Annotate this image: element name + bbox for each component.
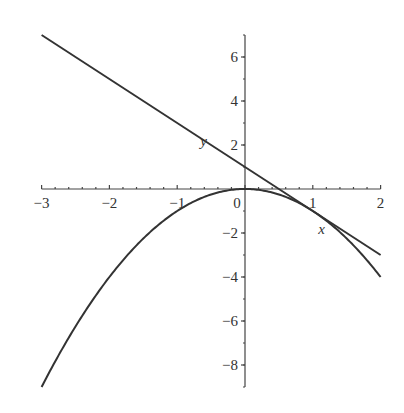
y-tick-label: −8 [222, 357, 238, 373]
tangent-line [42, 35, 381, 255]
axes [42, 35, 381, 387]
y-tick-label: 4 [231, 93, 239, 109]
y-tick-label: −6 [222, 313, 238, 329]
x-tick-label: 0 [233, 195, 241, 211]
labels: −3−2−1012642−2−4−6−8xy [34, 49, 385, 373]
x-axis-label: x [317, 221, 325, 237]
parabola-curve [42, 189, 381, 387]
x-tick-label: −3 [34, 195, 50, 211]
y-tick-label: −2 [222, 225, 238, 241]
x-tick-label: 2 [377, 195, 385, 211]
x-tick-label: −2 [101, 195, 117, 211]
curves [42, 35, 381, 387]
y-tick-label: 6 [231, 49, 239, 65]
y-axis-label: y [198, 133, 207, 149]
x-tick-label: 1 [309, 195, 317, 211]
y-tick-label: −4 [222, 269, 238, 285]
y-tick-label: 2 [231, 137, 239, 153]
x-tick-label: −1 [169, 195, 185, 211]
plot-area: −3−2−1012642−2−4−6−8xy [0, 0, 404, 413]
